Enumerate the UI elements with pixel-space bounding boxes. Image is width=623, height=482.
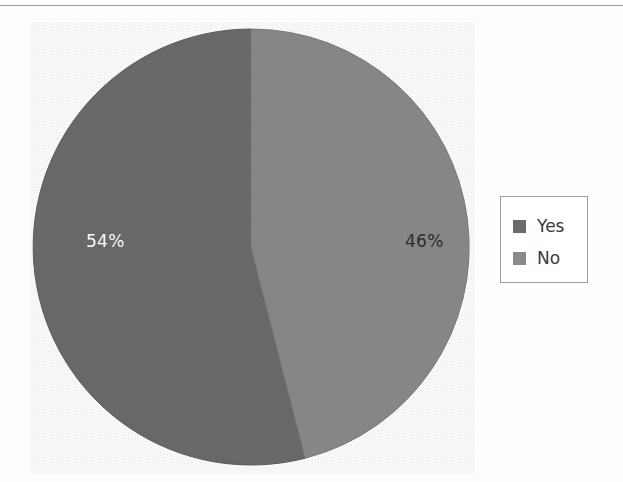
pie-label-no: 46% xyxy=(405,231,444,251)
legend-label-yes: Yes xyxy=(537,218,564,235)
figure-root: 54% 46% Yes No xyxy=(0,0,623,482)
pie-chart-svg: 54% 46% xyxy=(30,22,475,474)
legend-swatch-yes-icon xyxy=(513,220,526,233)
top-divider-rule xyxy=(0,5,623,6)
legend-item-no[interactable]: No xyxy=(513,243,587,273)
chart-legend: Yes No xyxy=(500,196,588,283)
legend-item-yes[interactable]: Yes xyxy=(513,211,587,241)
pie-chart: 54% 46% xyxy=(30,22,475,474)
legend-swatch-no-icon xyxy=(513,252,526,265)
legend-label-no: No xyxy=(537,250,560,267)
pie-label-yes: 54% xyxy=(86,231,125,251)
